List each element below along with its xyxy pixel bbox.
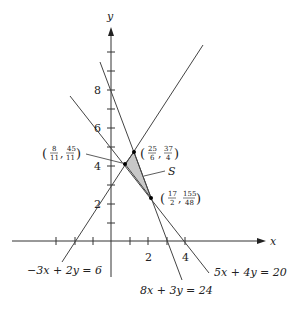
svg-text:): ) <box>196 191 201 206</box>
svg-text:): ) <box>174 146 179 161</box>
y-axis-arrow-icon <box>108 27 114 36</box>
svg-text:2: 2 <box>170 199 174 207</box>
equation-label-3: 5x + 4y = 20 <box>214 266 287 279</box>
feasible-region-diagram: x y 2 4 2 4 6 8 −3x + 2y = 6 8x + 3y = 2… <box>0 0 299 312</box>
line-5x-plus-4y-eq-20 <box>70 96 209 273</box>
vertex-point-3 <box>149 196 153 200</box>
x-tick-label-4: 4 <box>182 251 189 264</box>
svg-text:(: ( <box>42 146 47 161</box>
y-tick-label-2: 2 <box>94 198 101 211</box>
svg-text:(: ( <box>140 146 145 161</box>
svg-text:25: 25 <box>148 145 157 153</box>
vertex-point-1 <box>123 162 127 166</box>
svg-text:): ) <box>76 146 81 161</box>
point-label-1: ( 8 11 , 45 11 ) <box>42 145 81 162</box>
x-axis-arrow-icon <box>257 238 266 244</box>
svg-text:8: 8 <box>52 145 56 153</box>
svg-text:,: , <box>178 192 182 205</box>
point-label-3: ( 17 2 , 155 48 ) <box>160 190 201 207</box>
point-label-2: ( 25 6 , 37 4 ) <box>140 145 179 162</box>
svg-text:4: 4 <box>166 154 171 162</box>
vertex-point-2 <box>132 150 136 154</box>
svg-text:48: 48 <box>185 199 194 207</box>
svg-text:6: 6 <box>150 154 155 162</box>
x-axis-label: x <box>270 235 277 248</box>
y-tick-label-4: 4 <box>94 160 101 173</box>
svg-text:11: 11 <box>50 154 59 162</box>
equation-label-2: 8x + 3y = 24 <box>140 284 213 297</box>
x-tick-label-2: 2 <box>145 251 152 264</box>
svg-text:11: 11 <box>66 154 75 162</box>
svg-text:45: 45 <box>67 145 76 153</box>
region-label: S <box>168 165 176 178</box>
svg-text:17: 17 <box>168 190 177 198</box>
y-tick-label-8: 8 <box>94 84 101 97</box>
svg-text:,: , <box>60 147 64 160</box>
y-tick-label-6: 6 <box>94 122 101 135</box>
svg-text:,: , <box>158 147 162 160</box>
region-label-pointer <box>144 171 165 176</box>
svg-text:155: 155 <box>183 190 196 198</box>
equation-label-1: −3x + 2y = 6 <box>27 264 102 277</box>
line-neg3x-plus-2y-eq-6 <box>62 45 203 262</box>
svg-text:37: 37 <box>164 145 173 153</box>
svg-text:(: ( <box>160 191 165 206</box>
y-axis-label: y <box>106 10 114 23</box>
